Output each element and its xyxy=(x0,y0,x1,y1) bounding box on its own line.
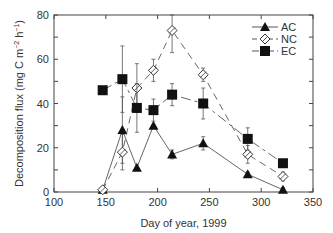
data-point xyxy=(198,99,208,109)
x-tick-label: 350 xyxy=(304,196,322,208)
y-tick-label: 60 xyxy=(37,53,49,65)
x-tick-label: 200 xyxy=(148,196,166,208)
series-ec xyxy=(98,46,288,168)
data-point xyxy=(148,105,158,115)
series-line xyxy=(103,30,283,189)
data-point xyxy=(167,90,177,100)
data-point xyxy=(167,149,177,158)
x-tick-label: 300 xyxy=(252,196,270,208)
legend-label-nc: NC xyxy=(281,33,297,45)
legend-label-ac: AC xyxy=(281,21,296,33)
y-tick-label: 40 xyxy=(37,98,49,110)
plot-frame xyxy=(54,15,313,192)
data-point xyxy=(278,158,288,168)
y-axis-title: Decomposition flux (mg C m−2 h−1) xyxy=(13,20,25,187)
y-tick-label: 20 xyxy=(37,142,49,154)
data-point xyxy=(148,121,158,130)
data-point xyxy=(243,169,253,178)
legend-marker-ec xyxy=(260,46,270,56)
series-ac xyxy=(98,97,288,194)
legend: ACNCEC xyxy=(252,21,297,57)
x-tick-label: 150 xyxy=(97,196,115,208)
y-tick-label: 0 xyxy=(43,186,49,198)
data-point xyxy=(117,74,127,84)
legend-marker-ac xyxy=(260,22,270,31)
series-nc xyxy=(98,15,288,195)
series-line xyxy=(103,126,283,190)
data-point xyxy=(132,163,142,172)
data-point xyxy=(132,103,142,113)
data-point xyxy=(117,125,127,134)
legend-label-ec: EC xyxy=(281,45,296,57)
x-axis-title: Day of year, 1999 xyxy=(140,217,226,229)
data-point xyxy=(243,134,253,144)
x-tick-label: 250 xyxy=(200,196,218,208)
data-point xyxy=(98,85,108,95)
data-point xyxy=(278,185,288,194)
chart: 100150200250300350Day of year, 199902040… xyxy=(0,0,333,233)
data-point xyxy=(198,138,208,147)
y-tick-label: 80 xyxy=(37,9,49,21)
